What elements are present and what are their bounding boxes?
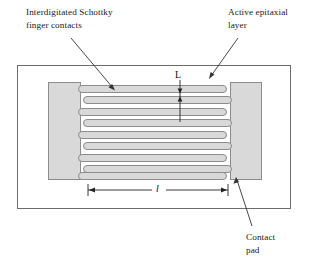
dimension-label-l: l: [156, 183, 159, 194]
left-finger: [79, 86, 227, 93]
right-contact-pad: [231, 83, 262, 180]
leader-line-epitaxial: [211, 38, 238, 76]
leader-line-contact-pad: [237, 180, 252, 226]
right-finger: [84, 143, 232, 150]
right-finger: [84, 97, 232, 104]
callout-label-epitaxial-layer: Active epitaxial layer: [228, 6, 288, 31]
figure-canvas: Interdigitated Schottky finger contacts …: [0, 0, 309, 277]
right-finger: [84, 120, 232, 127]
callout-label-finger-contacts: Interdigitated Schottky finger contacts: [26, 6, 113, 31]
left-finger: [79, 109, 227, 116]
dimension-l-arrowhead-left: [89, 188, 95, 193]
left-finger: [79, 173, 227, 180]
dimension-label-L: L: [175, 69, 181, 80]
leader-line-fingers: [71, 38, 113, 88]
left-contact-pad: [49, 83, 81, 180]
callout-label-contact-pad: Contact pad: [246, 231, 275, 256]
left-finger: [79, 132, 227, 139]
right-finger: [84, 166, 232, 173]
dimension-l-arrowhead-right: [221, 188, 227, 193]
left-finger: [79, 155, 227, 162]
